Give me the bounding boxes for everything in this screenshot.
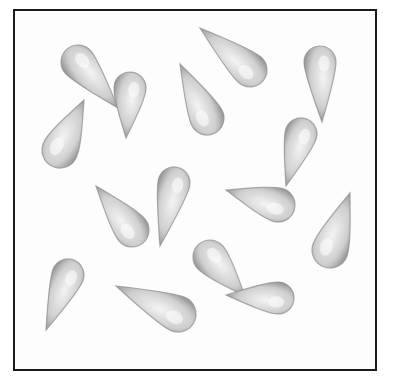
teardrop-shape xyxy=(303,45,338,122)
teardrop-shape xyxy=(271,114,321,190)
teardrop-shape xyxy=(31,254,89,336)
teardrop-shape xyxy=(307,187,367,273)
teardrop-illustration xyxy=(0,0,396,385)
teardrop-shape xyxy=(144,164,193,250)
teardrop-shape xyxy=(109,270,202,338)
teardrop-shape xyxy=(83,175,156,254)
teardrop-shape xyxy=(165,56,230,140)
teardrop-shape xyxy=(36,92,100,174)
teardrop-shape xyxy=(189,15,274,94)
